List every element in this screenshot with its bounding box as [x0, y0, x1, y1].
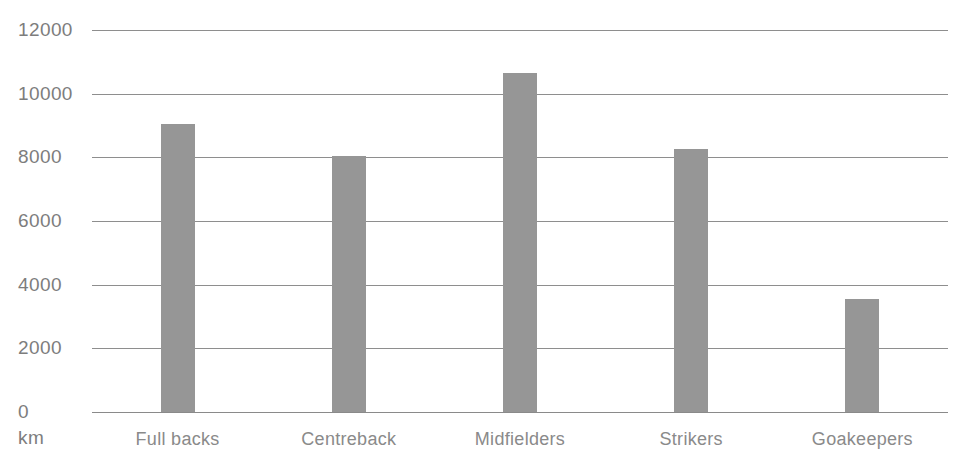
bar [161, 124, 195, 412]
y-axis-tick-label: 12000 [18, 20, 73, 39]
y-axis-tick-label: 6000 [18, 211, 62, 230]
y-axis-unit-label: km [18, 428, 44, 447]
x-axis-category-label: Strikers [659, 430, 722, 448]
y-axis-tick-label: 4000 [18, 275, 62, 294]
bar [674, 149, 708, 412]
bar [503, 73, 537, 412]
gridline [92, 412, 948, 413]
bar [332, 156, 366, 412]
x-axis-category-label: Centreback [301, 430, 396, 448]
bar-chart: 020004000600080001000012000 km Full back… [0, 0, 961, 470]
gridline [92, 30, 948, 31]
x-axis-category-label: Midfielders [475, 430, 565, 448]
x-axis-category-label: Goakeepers [812, 430, 913, 448]
x-axis-category-label: Full backs [136, 430, 220, 448]
plot-area [92, 30, 948, 412]
y-axis-tick-label: 0 [18, 402, 29, 421]
bar [845, 299, 879, 412]
y-axis-tick-label: 2000 [18, 338, 62, 357]
y-axis-tick-label: 10000 [18, 84, 73, 103]
y-axis-tick-label: 8000 [18, 147, 62, 166]
